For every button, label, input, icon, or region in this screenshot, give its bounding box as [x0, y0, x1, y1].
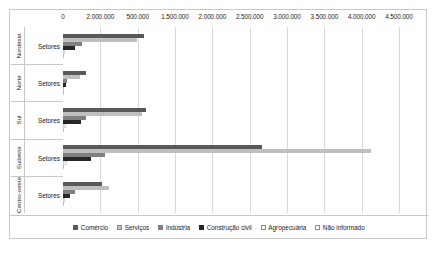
bar [63, 202, 64, 206]
region-label: Sul [15, 116, 22, 125]
setores-label: Setores [38, 80, 60, 87]
legend-item[interactable]: Serviços [117, 224, 149, 231]
category-label-row: NordesteSetores [11, 27, 63, 64]
gridline [399, 27, 400, 213]
setores-label: Setores [38, 154, 60, 161]
category-label-row: SulSetores [11, 101, 63, 138]
setores-label: Setores [38, 117, 60, 124]
bar [63, 128, 64, 132]
category-label-row: SudesteSetores [11, 139, 63, 176]
category-axis-gutter: NordesteSetoresNorteSetoresSulSetoresSud… [11, 27, 63, 213]
bar-group [63, 64, 399, 101]
category-inner-cell: Setores [24, 140, 63, 176]
legend-label: Serviços [125, 224, 150, 231]
plot-area [63, 27, 399, 213]
legend-item[interactable]: Agropecuária [261, 224, 307, 231]
x-axis-tick-label: 0 [61, 13, 64, 20]
category-label-row: Centro-oesteSetores [11, 176, 63, 213]
chart-legend: ComércioServiçosIndústriaConstrução civi… [10, 215, 428, 239]
region-label: Sudeste [15, 146, 22, 169]
x-axis-tick-label: 3.500.000 [311, 13, 339, 20]
category-inner-cell: Setores [24, 65, 63, 101]
legend-item[interactable]: Não informado [315, 224, 364, 231]
bar-group [63, 176, 399, 213]
setores-label: Setores [38, 191, 60, 198]
bar-group [63, 101, 399, 138]
x-axis-tick-label: 2.000.000 [199, 13, 227, 20]
legend-item[interactable]: Comércio [73, 224, 108, 231]
legend-label: Construção civil [207, 224, 252, 231]
legend-swatch-icon [73, 225, 78, 230]
bar [63, 165, 64, 169]
legend-swatch-icon [117, 225, 122, 230]
bar [63, 149, 371, 153]
region-label: Nordeste [15, 33, 22, 58]
bar-group [63, 27, 399, 64]
legend-item[interactable]: Construção civil [199, 224, 252, 231]
x-axis-tick-label: 4.000.000 [348, 13, 376, 20]
category-inner-cell: Setores [24, 102, 63, 138]
x-axis-tick-label: 2.000.000 [87, 13, 115, 20]
x-axis-tick-label: 500.000 [126, 13, 148, 20]
legend-label: Agropecuária [268, 224, 306, 231]
legend-swatch-icon [158, 225, 163, 230]
legend-swatch-icon [315, 225, 320, 230]
x-axis-tick-label: 4.500.000 [385, 13, 413, 20]
legend-label: Indústria [166, 224, 191, 231]
x-axis-tick-label: 2.500.000 [236, 13, 264, 20]
region-label: Centro-oeste [15, 177, 22, 213]
bar [63, 157, 91, 161]
bar [63, 54, 64, 58]
setores-label: Setores [38, 42, 60, 49]
category-inner-cell: Setores [24, 177, 63, 213]
legend-label: Não informado [323, 224, 365, 231]
region-label: Norte [15, 76, 22, 91]
bar [63, 91, 64, 95]
legend-item[interactable]: Indústria [158, 224, 190, 231]
x-axis-tick-labels: 02.000.000500.0001.500.0002.000.0002.500… [10, 10, 428, 26]
legend-swatch-icon [199, 225, 204, 230]
category-label-row: NorteSetores [11, 64, 63, 101]
x-axis-tick-label: 3.000.000 [273, 13, 301, 20]
legend-label: Comércio [81, 224, 108, 231]
legend-swatch-icon [261, 225, 266, 230]
chart-frame: 02.000.000500.0001.500.0002.000.0002.500… [9, 9, 427, 239]
x-axis-tick-label: 1.500.000 [161, 13, 189, 20]
bar-group [63, 139, 399, 176]
category-inner-cell: Setores [24, 27, 63, 64]
